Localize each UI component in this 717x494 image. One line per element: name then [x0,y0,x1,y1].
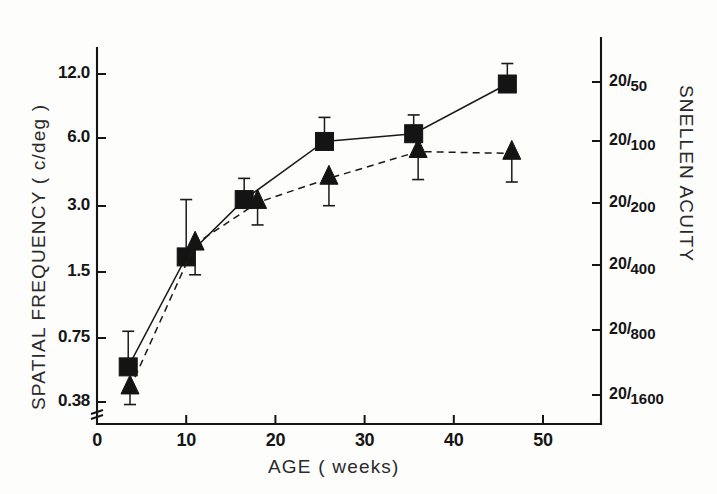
snellen-tick-label-2: 20/200 [609,192,657,212]
snellen-denominator-4: 800 [631,325,656,342]
datapoint-triangles-dashed-5 [503,140,521,182]
snellen-numerator-0: 20 [609,72,627,89]
datapoint-squares-solid-1 [177,200,195,266]
marker-triangle-5 [503,140,521,159]
y-axis-title-left: SPATIAL FREQUENCY ( c/deg ) [28,104,50,410]
snellen-tick-label-5: 20/1600 [609,384,665,404]
x-tick-label-1: 10 [166,430,206,451]
marker-square-0 [119,358,137,376]
y-tick-label-4: 0.75 [58,327,90,347]
datapoint-triangles-dashed-3 [320,165,338,205]
snellen-denominator-5: 1600 [631,390,664,407]
snellen-numerator-3: 20 [609,255,627,272]
snellen-tick-label-0: 20/50 [609,71,648,91]
marker-square-5 [498,75,516,93]
snellen-numerator-2: 20 [609,193,627,210]
x-axis-title: AGE ( weeks) [268,456,400,478]
marker-square-4 [405,125,423,143]
marker-square-3 [315,132,333,150]
y-tick-label-3: 1.5 [67,261,90,281]
x-tick-label-5: 50 [523,430,563,451]
snellen-denominator-3: 400 [631,260,656,277]
axes-group [91,38,601,424]
datapoint-squares-solid-5 [498,64,516,93]
snellen-tick-label-1: 20/100 [609,130,657,150]
marker-triangle-3 [320,165,338,184]
y-tick-label-5: 0.38 [58,391,90,411]
snellen-tick-label-3: 20/400 [609,254,657,274]
x-tick-label-4: 40 [434,430,474,451]
y-axis-title-right: SNELLEN ACUITY [675,85,697,262]
snellen-denominator-1: 100 [631,136,656,153]
datapoint-squares-solid-3 [315,117,333,150]
x-tick-label-3: 30 [345,430,385,451]
datapoint-triangles-dashed-4 [409,139,427,180]
datapoint-triangles-dashed-0 [121,375,139,404]
series-line-squares-solid [128,84,507,367]
snellen-denominator-0: 50 [631,77,648,94]
datapoint-squares-solid-4 [405,115,423,143]
snellen-numerator-4: 20 [609,320,627,337]
x-tick-label-2: 20 [255,430,295,451]
data-series-group [119,64,521,405]
snellen-denominator-2: 200 [631,198,656,215]
y-tick-label-2: 3.0 [67,195,90,215]
figure-canvas: 12.06.03.01.50.750.38 01020304050 20/502… [0,0,717,494]
snellen-numerator-5: 20 [609,385,627,402]
y-tick-label-1: 6.0 [67,127,90,147]
series-line-triangles-dashed [130,152,512,389]
snellen-tick-label-4: 20/800 [609,319,657,339]
x-tick-label-0: 0 [77,430,117,451]
snellen-numerator-1: 20 [609,131,627,148]
marker-triangle-1 [186,231,204,250]
marker-triangle-0 [121,375,139,394]
y-tick-label-0: 12.0 [58,63,90,83]
